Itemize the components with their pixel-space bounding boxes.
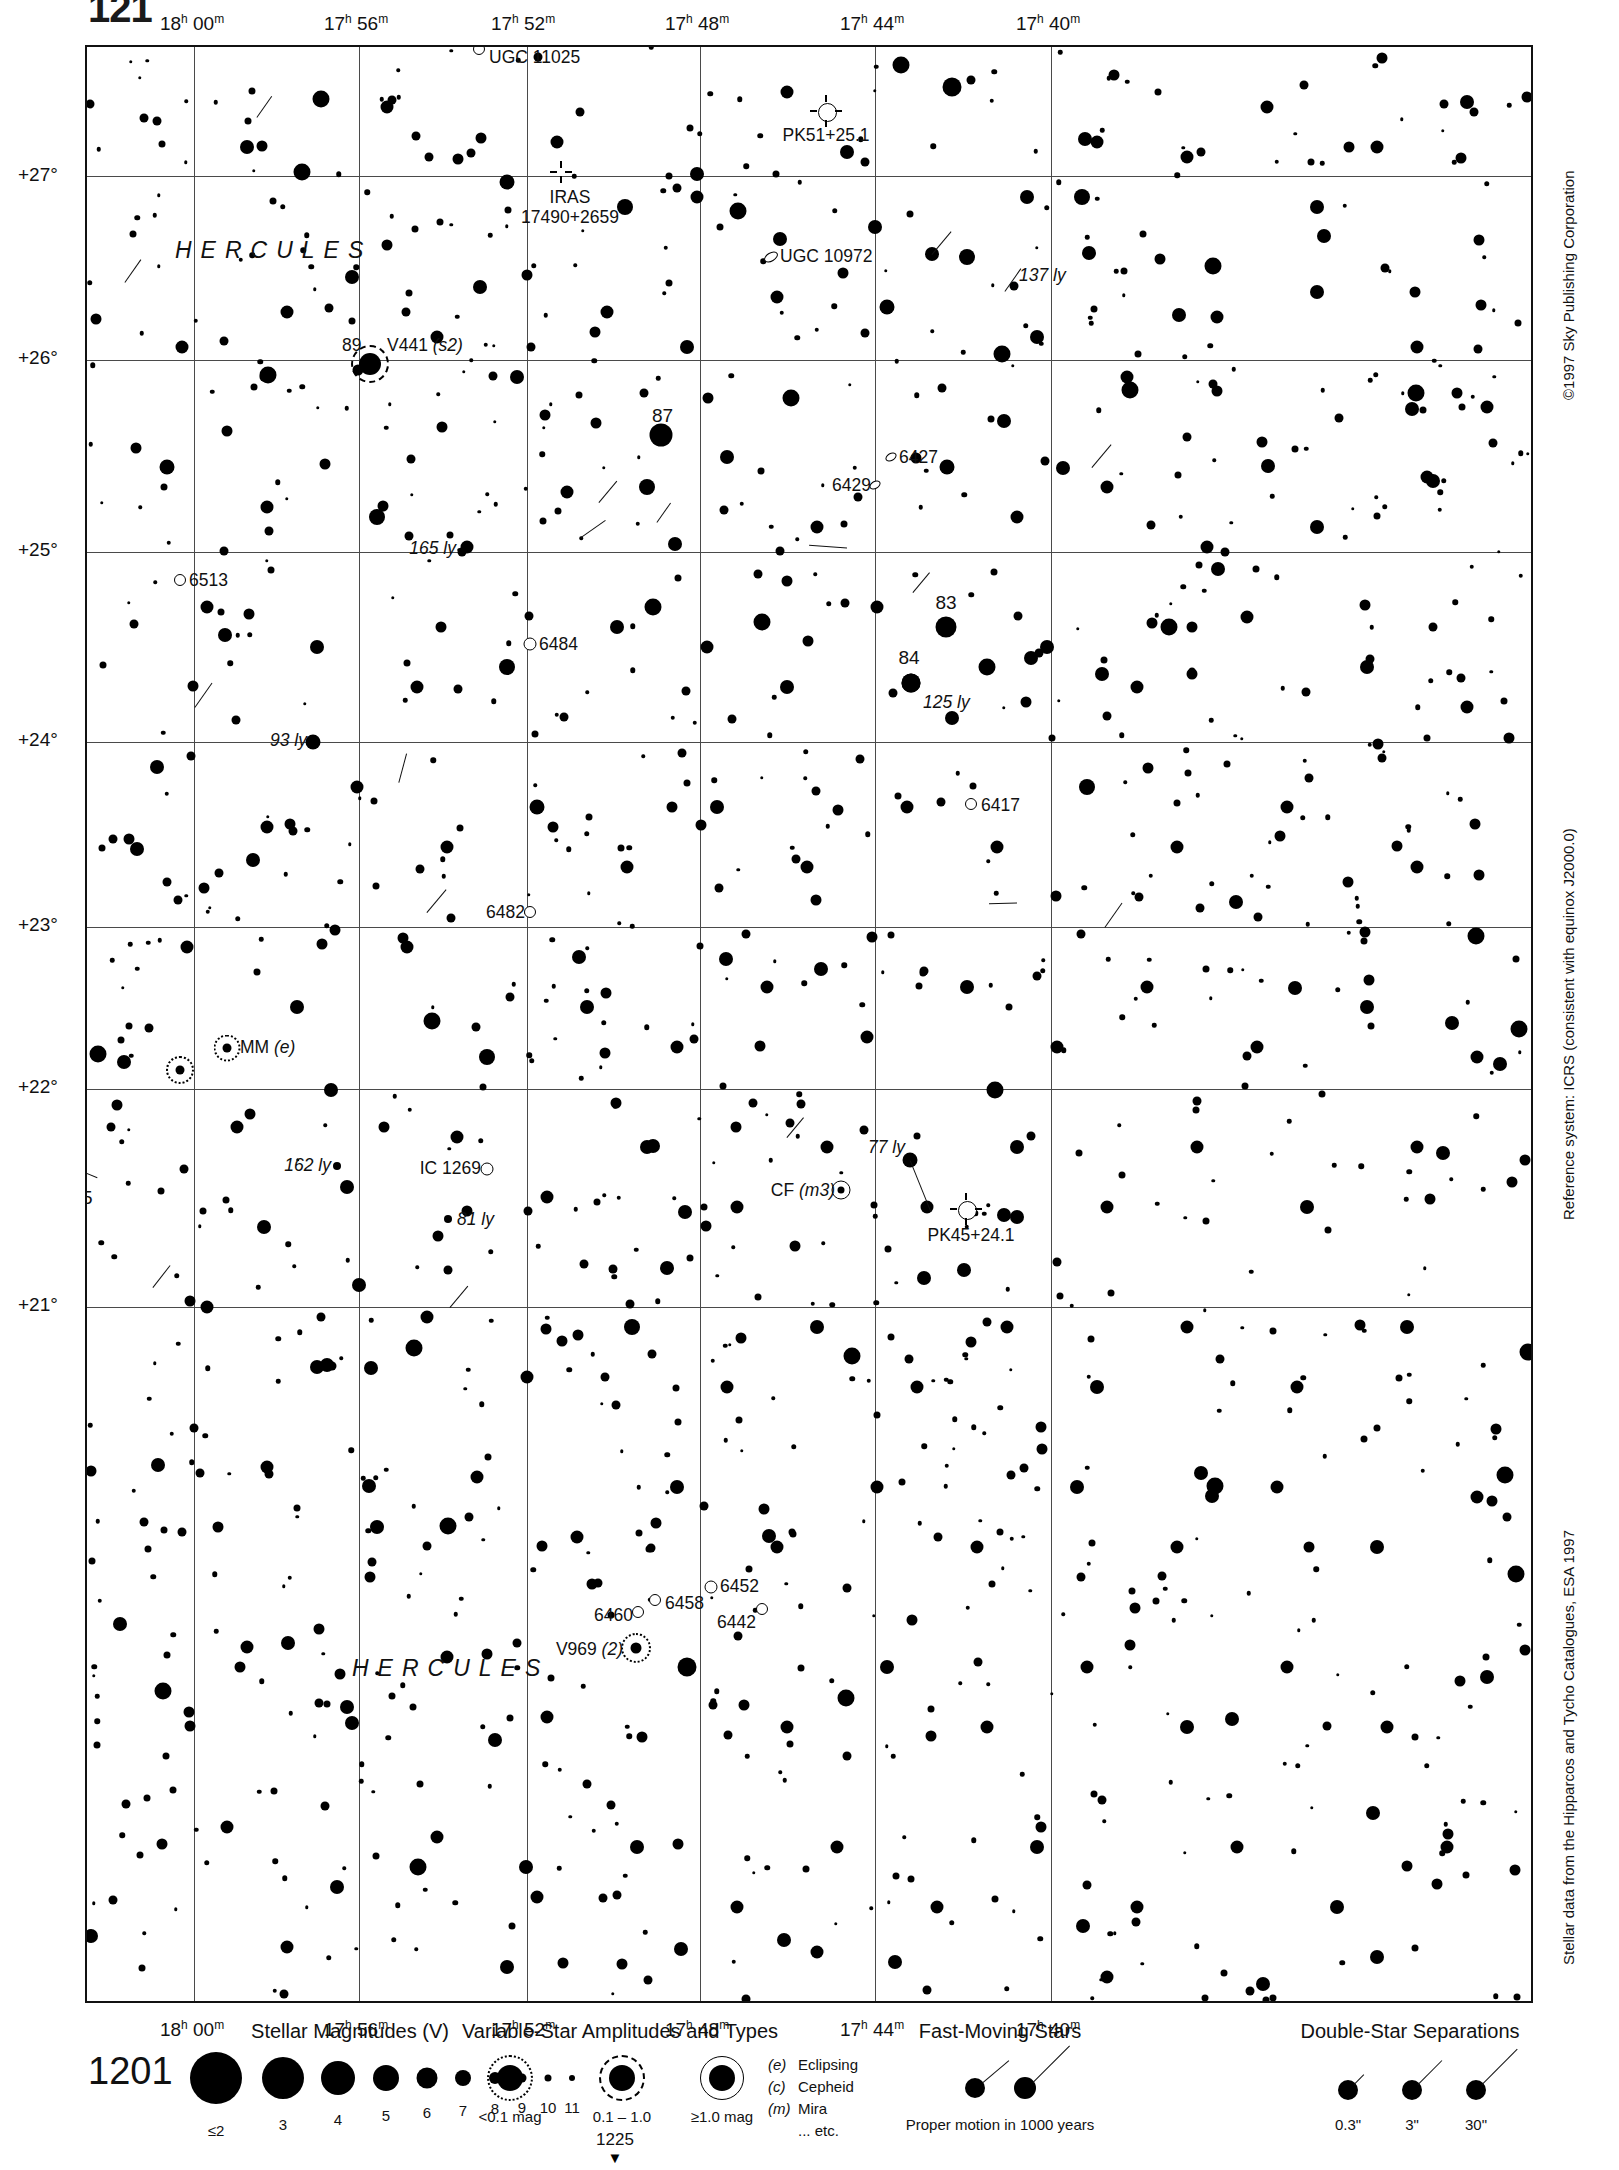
star-dot	[719, 952, 733, 966]
star-dot	[945, 711, 959, 725]
star-dot	[87, 280, 92, 286]
star-dot	[1173, 800, 1180, 807]
star-dot-bright	[310, 1360, 324, 1374]
star-dot	[407, 1594, 412, 1599]
star-dot	[549, 402, 553, 406]
star-dot	[265, 559, 269, 563]
star-dot	[881, 970, 885, 974]
star-dot	[248, 88, 255, 95]
star-dot	[407, 1107, 412, 1112]
star-dot	[293, 1265, 297, 1269]
star-dot	[727, 715, 736, 724]
star-dot-bright	[1030, 1840, 1044, 1854]
star-dot-bright	[1271, 1481, 1284, 1494]
star-dot	[1458, 797, 1463, 802]
star-dot	[843, 1348, 860, 1365]
star-dot-bright	[630, 1840, 644, 1854]
double-label-03: 0.3"	[1335, 2116, 1361, 2133]
star-dot-bright	[721, 1381, 734, 1394]
star-dot	[1343, 142, 1354, 153]
star-dot	[1097, 1795, 1106, 1804]
star-dot	[244, 608, 255, 619]
star-dot-bright	[1370, 1540, 1384, 1554]
star-dot	[765, 1865, 771, 1871]
star-dot	[210, 389, 215, 394]
star-dot	[611, 1992, 615, 1996]
star-dot-bright	[617, 199, 633, 215]
star-dot	[1263, 1996, 1270, 2001]
star-dot	[625, 1725, 630, 1730]
star-dot	[601, 987, 612, 998]
star-dot	[1359, 927, 1370, 938]
label-6482: 6482	[486, 902, 525, 922]
magnitude-dot-11	[569, 2075, 575, 2081]
star-dot	[1454, 1675, 1465, 1686]
star-dot	[1013, 612, 1022, 621]
star-dot	[630, 667, 636, 673]
star-dot-bright	[571, 1531, 584, 1544]
star-dot	[558, 1958, 569, 1969]
star-dot-bright	[1131, 1901, 1144, 1914]
star-dot	[1476, 300, 1487, 311]
star-dot	[214, 100, 219, 105]
star-dot	[198, 1225, 202, 1229]
star-dot-bright	[479, 1049, 495, 1065]
star-dot	[913, 1132, 920, 1139]
star-dot	[623, 1874, 628, 1879]
star-dot	[743, 163, 749, 169]
star-dot	[227, 660, 233, 666]
star-dot	[917, 1271, 931, 1285]
magnitude-dot-2	[190, 2052, 242, 2104]
star-dot	[98, 1598, 103, 1603]
star-dot	[968, 592, 974, 598]
proper-motion-arrow-19	[152, 1265, 170, 1288]
star-dot	[512, 1639, 521, 1648]
label-6442: 6442	[717, 1612, 756, 1632]
magnitude-dot-7	[455, 2070, 471, 2086]
star-dot	[982, 1431, 986, 1435]
star-dot	[618, 845, 625, 852]
star-dot	[1108, 1289, 1115, 1296]
star-dot	[916, 982, 923, 989]
star-dot	[1134, 350, 1141, 357]
star-dot	[257, 1220, 271, 1234]
star-dot-bright	[960, 980, 974, 994]
star-dot	[1242, 1051, 1251, 1060]
star-dot	[1483, 1653, 1490, 1660]
star-dot	[1287, 1408, 1293, 1414]
star-dot	[314, 1699, 323, 1708]
star-dot	[1489, 438, 1498, 447]
star-dot	[584, 988, 590, 994]
star-dot-bright	[1460, 95, 1474, 109]
label-81ly: 81 ly	[457, 1209, 494, 1229]
star-dot-bright	[1011, 511, 1024, 524]
star-dot	[1281, 686, 1286, 691]
variable-ring-v969	[621, 1633, 651, 1663]
star-dot	[1050, 890, 1061, 901]
star-dot	[142, 1932, 146, 1936]
star-dot	[672, 184, 681, 193]
star-dot	[655, 1299, 661, 1305]
star-dot	[384, 426, 389, 431]
star-dot	[1407, 1373, 1412, 1378]
star-dot	[758, 1503, 769, 1514]
star-dot	[630, 924, 635, 929]
star-dot	[1378, 754, 1387, 763]
star-dot	[531, 730, 538, 737]
ra-tick-top-2: 17h 52m	[491, 12, 555, 35]
star-dot	[553, 1037, 557, 1041]
star-dot	[358, 796, 362, 800]
star-dot	[1359, 1164, 1365, 1170]
star-dot	[1519, 1644, 1530, 1655]
star-dot-bright	[991, 841, 1004, 854]
label-6513: 6513	[189, 570, 228, 590]
star-dot	[179, 1164, 188, 1173]
star-dot	[276, 1379, 281, 1384]
star-dot	[1493, 1994, 1499, 2000]
iras-source-glyph	[550, 161, 572, 183]
star-dot	[1467, 927, 1484, 944]
star-dot	[663, 292, 667, 296]
star-dot-bright	[1181, 1321, 1194, 1334]
star-dot-bright	[531, 1891, 544, 1904]
star-dot	[723, 1344, 728, 1349]
